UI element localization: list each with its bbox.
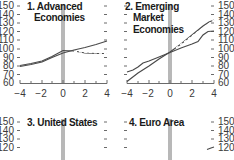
x-axis [20,80,107,84]
panel-title: 4. Euro Area [129,117,185,128]
panel-title-line2: Economies [34,12,85,23]
svg-text:2: 2 [189,88,195,99]
svg-text:−2: −2 [142,88,154,99]
panel-title-line2: Market [133,12,164,23]
svg-text:0: 0 [167,88,173,99]
panel-title: 1. Advanced [27,1,82,12]
svg-text:120: 120 [218,142,234,153]
svg-text:4: 4 [104,88,110,99]
panel-advanced-economies: 150 140 130 120 110 100 90 80 70 60 [0,0,110,99]
x-axis-labels: −4 −2 0 2 4 [121,88,217,99]
shaded-band [168,4,172,84]
x-axis [127,80,214,84]
svg-text:120: 120 [0,142,14,153]
svg-text:−2: −2 [35,88,47,99]
y-ticks-right [211,6,214,75]
panel-title: 3. United States [27,117,98,128]
panel-title: 2. Emerging [125,1,179,12]
panel-title-line3: Economies [133,24,184,35]
svg-text:0: 0 [60,88,66,99]
svg-text:60: 60 [3,77,15,88]
svg-text:−4: −4 [121,88,133,99]
series-solid [207,147,214,150]
y-ticks-left [17,6,20,75]
y-axis-labels: 150 140 130 120 110 100 90 80 70 60 [0,0,14,88]
y-axis-labels-right: 150 140 130 120 110 100 90 80 70 60 [218,0,234,88]
y-ticks-left [124,6,127,75]
svg-text:4: 4 [211,88,217,99]
panel-emerging-market-economies: 150 140 130 120 110 100 90 80 70 60 −4 −… [121,0,234,99]
svg-text:60: 60 [218,77,230,88]
panel-united-states: 150 140 130 120 3. United States [0,116,107,160]
x-axis-labels: −4 −2 0 2 4 [14,88,110,99]
svg-text:−4: −4 [14,88,26,99]
panel-euro-area: 150 140 130 120 4. Euro Area [124,116,234,160]
chart-figure: 150 140 130 120 110 100 90 80 70 60 [0,0,234,160]
y-axis-labels: 150 140 130 120 [0,116,14,153]
svg-text:2: 2 [82,88,88,99]
y-axis-labels-right: 150 140 130 120 [218,116,234,153]
y-ticks-right [104,6,107,75]
